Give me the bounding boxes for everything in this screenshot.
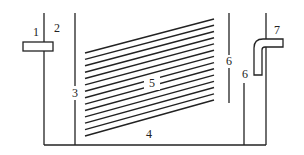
- label-3: 3: [72, 86, 78, 100]
- label-6b: 6: [242, 67, 248, 81]
- label-1: 1: [33, 25, 39, 39]
- diagram-canvas: 12345667: [0, 0, 304, 155]
- sedimentation-tank-diagram: 12345667: [0, 0, 304, 155]
- inlet-box: [23, 42, 53, 51]
- label-4: 4: [146, 127, 152, 141]
- label-7: 7: [274, 23, 280, 37]
- label-5: 5: [149, 76, 155, 90]
- label-6a: 6: [226, 54, 232, 68]
- label-2: 2: [54, 21, 60, 35]
- outlet-pipe: [254, 39, 283, 75]
